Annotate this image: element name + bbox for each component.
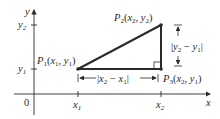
p2-dot (159, 23, 163, 27)
x2-tick-label: x2 (155, 99, 165, 112)
right-triangle (78, 25, 161, 69)
vertical-dimension-label: |y2 − y1| (171, 41, 203, 54)
p2-label: P2(x2, y2) (113, 12, 153, 25)
x-axis-label: x (205, 97, 211, 108)
x1-tick-label: x1 (72, 99, 81, 112)
y1-tick-label: y1 (17, 63, 26, 76)
origin-label: 0 (24, 97, 29, 108)
y2-tick-label: y2 (17, 19, 27, 32)
distance-formula-diagram: y x 0 y2 y1 x1 x2 P1(x1, y1) P2(x2, y2) … (0, 0, 220, 119)
p3-label: P3(x2, y1) (162, 73, 202, 86)
horizontal-dimension-label: |x2 − x1| (97, 73, 129, 86)
hypotenuse (78, 25, 161, 69)
p1-label: P1(x1, y1) (36, 55, 76, 68)
y-axis-label: y (24, 6, 30, 17)
p1-dot (76, 67, 80, 71)
p3-dot (159, 67, 163, 71)
